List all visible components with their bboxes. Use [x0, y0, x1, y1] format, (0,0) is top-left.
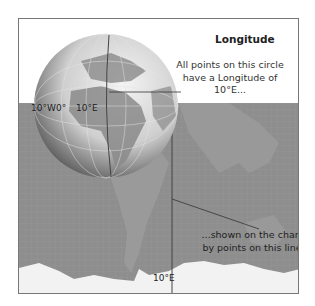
chart-caption: ...shown on the chart by points on this …: [197, 229, 299, 254]
globe-label-10e: 10°E: [76, 103, 98, 113]
chart-meridian-label: 10°E: [153, 273, 175, 283]
globe-caption: All points on this circle have a Longitu…: [169, 59, 291, 97]
globe-label-0: 0°: [56, 103, 66, 113]
globe-label-10w: 10°W: [31, 103, 56, 113]
diagram-frame: 10°E 10°W 0° 10°E Longitu: [18, 18, 299, 294]
diagram-title: Longitude: [215, 33, 275, 45]
